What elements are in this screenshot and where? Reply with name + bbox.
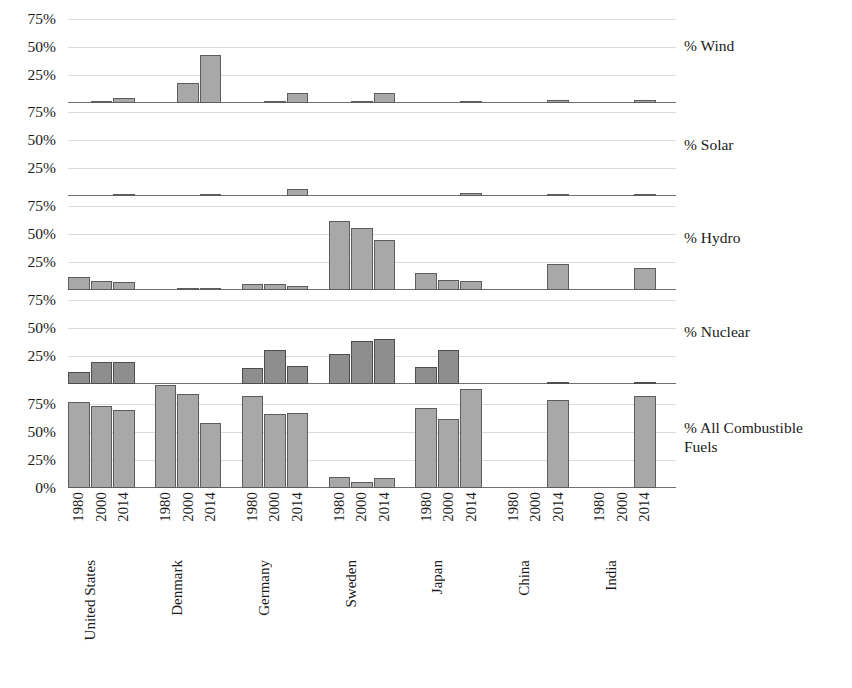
year-slot: 2014 <box>547 492 569 522</box>
bar[interactable] <box>113 194 135 196</box>
panel-solar: 75%50%25%% Solar <box>0 110 852 196</box>
country-label: Sweden <box>343 560 360 608</box>
bar[interactable] <box>460 389 482 488</box>
bar[interactable] <box>329 354 351 384</box>
bar[interactable] <box>242 396 264 488</box>
year-slot: 2000 <box>525 492 547 522</box>
bar[interactable] <box>200 288 222 290</box>
bar[interactable] <box>547 264 569 290</box>
bar[interactable] <box>287 189 309 196</box>
bar[interactable] <box>113 362 135 384</box>
bar-slot <box>264 203 286 290</box>
bar[interactable] <box>91 101 113 103</box>
bar[interactable] <box>438 280 460 290</box>
bar-group-india <box>589 297 676 384</box>
bar[interactable] <box>460 101 482 103</box>
bar[interactable] <box>547 194 569 196</box>
bar[interactable] <box>329 221 351 290</box>
bar[interactable] <box>460 193 482 196</box>
bar[interactable] <box>547 100 569 103</box>
bar-slot <box>329 203 351 290</box>
bar[interactable] <box>351 228 373 290</box>
bar[interactable] <box>264 414 286 488</box>
panel-label-nuclear: % Nuclear <box>684 323 852 341</box>
bar[interactable] <box>438 419 460 488</box>
bar[interactable] <box>264 350 286 384</box>
bar[interactable] <box>460 281 482 290</box>
bar-group-germany <box>242 297 329 384</box>
bar[interactable] <box>200 423 222 488</box>
bar[interactable] <box>634 194 656 196</box>
bar[interactable] <box>91 406 113 488</box>
bar[interactable] <box>177 83 199 103</box>
bar[interactable] <box>351 101 373 103</box>
bar[interactable] <box>287 286 309 290</box>
bar-groups <box>68 203 676 290</box>
year-label: 2000 <box>266 492 283 522</box>
bar-group-china <box>502 390 589 488</box>
y-tick-label: 75% <box>28 396 56 412</box>
bar[interactable] <box>374 240 396 290</box>
y-axis-solar: 75%50%25% <box>0 110 62 196</box>
bar[interactable] <box>68 402 90 488</box>
bar[interactable] <box>91 281 113 290</box>
bar-slot <box>374 390 396 488</box>
bar[interactable] <box>264 101 286 103</box>
year-label: 2000 <box>180 492 197 522</box>
bar[interactable] <box>351 341 373 384</box>
year-slot: 1980 <box>329 492 351 522</box>
bar-slot <box>177 8 199 103</box>
bar[interactable] <box>200 194 222 196</box>
bar[interactable] <box>113 410 135 488</box>
bar-slot <box>612 110 634 196</box>
bar[interactable] <box>351 482 373 488</box>
bar[interactable] <box>177 288 199 290</box>
bar-slot <box>91 8 113 103</box>
bar[interactable] <box>415 408 437 488</box>
bar[interactable] <box>547 400 569 488</box>
bar[interactable] <box>374 339 396 384</box>
bar-slot <box>525 203 547 290</box>
bar-slot <box>460 8 482 103</box>
bar[interactable] <box>374 93 396 103</box>
bar-slot <box>438 8 460 103</box>
bar[interactable] <box>634 382 656 384</box>
bar-slot <box>287 203 309 290</box>
bar[interactable] <box>329 477 351 488</box>
bar[interactable] <box>68 277 90 290</box>
bar[interactable] <box>287 413 309 488</box>
bar[interactable] <box>634 268 656 290</box>
bar-slot <box>91 110 113 196</box>
plot-area-wind <box>68 8 676 103</box>
bar[interactable] <box>634 100 656 103</box>
bar[interactable] <box>91 362 113 384</box>
bar[interactable] <box>438 350 460 384</box>
bar-group-denmark <box>155 297 242 384</box>
bar-slot <box>113 390 135 488</box>
bar[interactable] <box>287 93 309 103</box>
bar-slot <box>374 110 396 196</box>
bar[interactable] <box>242 284 264 290</box>
bar-slot <box>200 8 222 103</box>
bar[interactable] <box>68 372 90 384</box>
bar[interactable] <box>177 394 199 488</box>
bar[interactable] <box>113 98 135 103</box>
bar[interactable] <box>634 396 656 488</box>
panel-label-combustible: % All Combustible Fuels <box>684 419 852 456</box>
bar[interactable] <box>264 284 286 290</box>
bar[interactable] <box>287 366 309 384</box>
country-label: India <box>603 560 620 591</box>
bar[interactable] <box>242 368 264 384</box>
bar[interactable] <box>547 382 569 384</box>
year-label: 1980 <box>244 492 261 522</box>
y-tick-label: 75% <box>28 292 56 308</box>
bar[interactable] <box>415 273 437 290</box>
year-label: 1980 <box>157 492 174 522</box>
bar[interactable] <box>200 55 222 103</box>
bar[interactable] <box>415 367 437 384</box>
bar-slot <box>177 390 199 488</box>
bar[interactable] <box>374 478 396 488</box>
bar[interactable] <box>113 282 135 290</box>
bar[interactable] <box>155 385 177 488</box>
bar-slot <box>502 203 524 290</box>
